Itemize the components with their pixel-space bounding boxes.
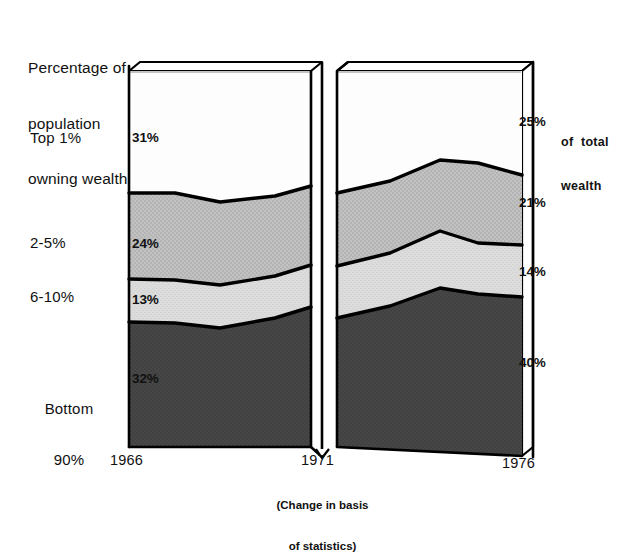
axis-break-note-line-1: (Change in basis bbox=[245, 499, 400, 513]
end-value-bottom-90pct: 40% bbox=[519, 355, 546, 370]
category-label-6-10pct: 6-10% bbox=[30, 288, 74, 305]
category-label-bottom-90pct: Bottom 90% bbox=[30, 366, 108, 502]
category-label-2-5pct: 2-5% bbox=[30, 234, 66, 251]
page-title-line-3: owning wealth bbox=[28, 170, 128, 189]
panel-left-1966-1971 bbox=[129, 62, 322, 457]
category-label-bottom-90pct-line-1: Bottom bbox=[30, 400, 108, 417]
value-axis-caption-line-1: of total bbox=[561, 135, 609, 150]
panel-right-top-face bbox=[337, 62, 533, 71]
end-value-2-5pct: 21% bbox=[519, 195, 546, 210]
page-title: Percentage of population owning wealth bbox=[28, 22, 128, 226]
start-value-top-1pct: 31% bbox=[132, 130, 159, 145]
axis-break-note: (Change in basis of statistics) bbox=[245, 472, 400, 556]
x-tick-1971: 1971 bbox=[301, 452, 334, 468]
panel-left-break-edge bbox=[311, 62, 322, 457]
panel-right-1971-1976 bbox=[337, 62, 533, 457]
x-tick-1966: 1966 bbox=[110, 452, 143, 468]
category-label-bottom-90pct-line-2: 90% bbox=[30, 451, 108, 468]
page-title-line-1: Percentage of bbox=[28, 59, 128, 78]
value-axis-caption: of total wealth bbox=[561, 106, 609, 222]
value-axis-caption-line-2: wealth bbox=[561, 179, 609, 194]
start-value-2-5pct: 24% bbox=[132, 236, 159, 251]
category-label-top-1pct: Top 1% bbox=[30, 129, 81, 146]
panel-left-top-face bbox=[129, 62, 322, 71]
end-value-6-10pct: 14% bbox=[519, 264, 546, 279]
axis-break-note-line-2: of statistics) bbox=[245, 540, 400, 554]
x-tick-1976: 1976 bbox=[502, 455, 535, 471]
start-value-bottom-90pct: 32% bbox=[132, 371, 159, 386]
end-value-top-1pct: 25% bbox=[519, 114, 546, 129]
start-value-6-10pct: 13% bbox=[132, 292, 159, 307]
